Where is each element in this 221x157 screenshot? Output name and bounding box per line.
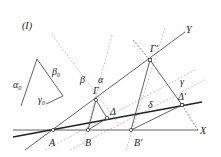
x-axis-label: X [199,125,207,136]
triangle-gammaprime-deltaprime-bprime [131,60,182,130]
label-delta-prime: Δ′ [177,91,187,102]
dashed-line-delta-prime-ext [182,105,198,130]
triangle-label-alpha0: α0 [13,79,21,91]
point-b [86,128,89,131]
geometry-diagram: (I) α0 β0 γ0 X Y A B B′ Γ Γ′ Δ Δ′ β α γ … [0,0,221,157]
point-b-prime [129,128,132,131]
segment-gammaprime-bprime [131,60,150,130]
triangle-label-gamma0: γ0 [38,94,45,106]
label-line-delta: δ [148,99,153,110]
point-gamma-prime [149,59,152,62]
label-line-alpha: α [98,74,104,85]
dashed-line-gamma-prime-ext [133,40,150,60]
triangle-gamma-delta-b [88,100,107,130]
point-delta-prime [181,104,184,107]
y-axis-label: Y [186,24,193,35]
label-gamma-prime: Γ′ [149,43,159,54]
point-gamma [94,98,97,101]
label-gamma: Γ [92,85,99,96]
label-b-prime: B′ [134,137,143,148]
label-line-gamma: γ [180,76,185,87]
label-delta: Δ [109,106,116,117]
point-a [51,128,54,131]
triangle-label-beta0: β0 [51,66,60,78]
label-line-beta: β [79,74,85,85]
label-a: A [48,137,56,148]
label-b: B [85,137,91,148]
figure-label: (I) [22,20,33,32]
point-delta [105,116,108,119]
